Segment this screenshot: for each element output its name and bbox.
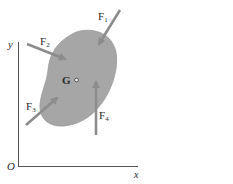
- force-label-f2: F2: [40, 35, 50, 49]
- force-diagram: y O x G F1 F2 F3 F4: [0, 0, 233, 184]
- center-of-mass-point: [75, 78, 79, 82]
- center-of-mass-label: G: [62, 74, 71, 86]
- force-label-f1: F1: [98, 10, 108, 24]
- force-label-f3: F3: [26, 100, 36, 114]
- force-label-f4: F4: [99, 109, 109, 123]
- rigid-body: [40, 30, 117, 126]
- x-axis-label: x: [133, 169, 139, 180]
- y-axis-label: y: [7, 38, 13, 50]
- origin-label: O: [7, 160, 15, 172]
